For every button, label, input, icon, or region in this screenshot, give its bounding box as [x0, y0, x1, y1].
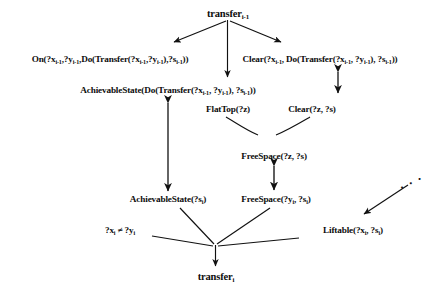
node-achievable-state-i: AchievableState(?si): [130, 195, 206, 205]
edge-layer: [0, 0, 429, 291]
edge-flattop-to-freespace-z: [226, 117, 258, 135]
node-goal: transferi: [198, 271, 235, 282]
edge-root-to-clear-right: [230, 21, 281, 42]
node-clear-right: Clear(?xi-1, Do(Transfer(?xi-1, ?yi-1), …: [242, 55, 397, 65]
node-clear-z: Clear(?z, ?s): [288, 105, 336, 115]
node-freespace-z: FreeSpace(?z, ?s): [241, 152, 307, 162]
node-on-left: On(?xi-1,?yi-1,Do(Transfer(?xi-1,?yi-1),…: [32, 55, 189, 65]
edge-not-equal-to-goal: [152, 236, 213, 246]
edge-liftable-to-goal: [218, 238, 299, 246]
node-achievable-state-prev: AchievableState(Do(Transfer(?xi-1, ?yi-1…: [80, 86, 255, 96]
edge-root-to-on-left: [174, 21, 226, 42]
node-not-equal: ?xi ≠ ?yi: [105, 226, 135, 236]
node-liftable: Liftable(?xi, ?si): [323, 226, 383, 236]
node-root-subscript: i-1: [242, 13, 249, 20]
proof-tree-diagram: transferi-1 On(?xi-1,?yi-1,Do(Transfer(?…: [0, 0, 429, 291]
node-root: transferi-1: [207, 8, 249, 19]
edge-achievable-i-to-goal: [180, 208, 214, 244]
node-freespace-y: FreeSpace(?yi, ?si): [241, 195, 310, 205]
edge-clear-z-to-freespace-z: [276, 117, 310, 135]
node-goal-subscript: i: [233, 276, 235, 283]
node-flattop: FlatTop(?z): [206, 105, 250, 115]
edge-freespace-y-to-goal: [217, 208, 270, 244]
